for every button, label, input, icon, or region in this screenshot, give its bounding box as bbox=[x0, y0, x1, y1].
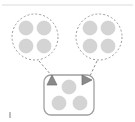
right-dot-3 bbox=[83, 39, 97, 53]
right-dot-2 bbox=[101, 21, 115, 35]
box-dot-2 bbox=[52, 96, 66, 110]
box-dot-1 bbox=[62, 80, 76, 94]
diagram-canvas bbox=[0, 0, 135, 122]
grouping-diagram bbox=[0, 0, 135, 122]
right-dot-4 bbox=[101, 39, 115, 53]
right-dot-1 bbox=[83, 21, 97, 35]
left-dot-1 bbox=[19, 21, 33, 35]
left-dot-2 bbox=[37, 21, 51, 35]
box-dot-3 bbox=[73, 96, 87, 110]
left-dot-3 bbox=[19, 39, 33, 53]
left-dot-4 bbox=[37, 39, 51, 53]
bottom-left-mark bbox=[9, 112, 11, 118]
